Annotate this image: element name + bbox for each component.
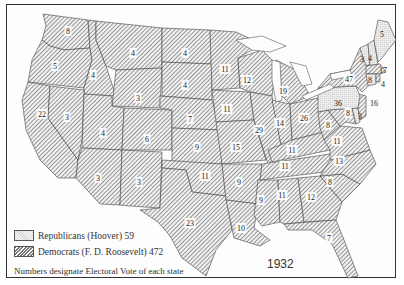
label-nevada: 3: [65, 113, 69, 122]
legend-republican-label: Republicans (Hoover) 59: [38, 231, 134, 241]
label-south-carolina: 8: [328, 178, 332, 187]
label-arizona: 3: [96, 174, 100, 183]
label-iowa: 11: [223, 105, 231, 114]
label-rhode-island: 4: [381, 80, 385, 89]
label-illinois: 29: [255, 126, 263, 135]
label-minnesota: 11: [221, 65, 229, 74]
legend: Republicans (Hoover) 59 Democrats (F. D.…: [14, 229, 163, 261]
democrat-swatch: [14, 246, 34, 257]
label-ohio: 26: [300, 114, 308, 123]
label-texas: 23: [186, 219, 194, 228]
label-kentucky: 11: [288, 146, 296, 155]
state-rhode-island: [376, 74, 380, 82]
label-nebraska: 7: [188, 115, 192, 124]
state-wisconsin: [238, 50, 276, 96]
republican-swatch: [14, 230, 34, 241]
label-south-dakota: 4: [183, 81, 187, 90]
label-michigan: 19: [279, 87, 287, 96]
state-montana: [96, 21, 162, 70]
label-idaho: 4: [91, 71, 95, 80]
label-georgia: 12: [307, 193, 315, 202]
label-connecticut: 8: [368, 76, 372, 85]
label-new-hampshire: 4: [368, 54, 372, 63]
label-missouri: 15: [232, 143, 240, 152]
label-massachusetts: 17: [379, 66, 387, 75]
state-north-dakota: [162, 28, 212, 64]
label-new-mexico: 3: [137, 178, 141, 187]
label-virginia: 11: [333, 137, 341, 146]
label-tennessee: 11: [281, 162, 289, 171]
label-pennsylvania: 36: [334, 99, 342, 108]
label-maine: 5: [380, 30, 384, 39]
label-mississippi: 9: [259, 196, 263, 205]
legend-republican: Republicans (Hoover) 59: [14, 229, 163, 242]
label-north-dakota: 4: [183, 49, 187, 58]
label-kansas: 9: [195, 143, 199, 152]
label-florida: 7: [327, 234, 331, 243]
label-alabama: 11: [278, 191, 286, 200]
label-oregon: 5: [53, 62, 57, 71]
legend-democrat: Democrats (F. D. Roosevelt) 472: [14, 245, 163, 258]
legend-democrat-label: Democrats (F. D. Roosevelt) 472: [38, 247, 163, 257]
label-north-carolina: 13: [335, 157, 343, 166]
label-wyoming: 3: [136, 94, 140, 103]
label-montana: 4: [131, 49, 135, 58]
label-indiana: 14: [276, 119, 284, 128]
label-california: 22: [38, 110, 46, 119]
label-vermont: 3: [360, 55, 364, 64]
label-wisconsin: 12: [243, 76, 251, 85]
label-delaware: 3: [358, 112, 362, 121]
state-maine: [374, 20, 396, 62]
label-oklahoma: 11: [201, 172, 209, 181]
map-note: Numbers designate Electoral Vote of each…: [14, 266, 184, 276]
label-new-york: 47: [345, 75, 353, 84]
label-west-virginia: 8: [326, 121, 330, 130]
map-year: 1932: [267, 257, 294, 271]
label-new-jersey: 16: [370, 99, 378, 108]
label-louisiana: 10: [237, 224, 245, 233]
label-maryland: 8: [346, 109, 350, 118]
label-washington: 8: [66, 27, 70, 36]
label-arkansas: 9: [237, 178, 241, 187]
label-colorado: 6: [145, 135, 149, 144]
label-utah: 4: [101, 129, 105, 138]
state-florida: [284, 220, 358, 278]
state-iowa: [212, 90, 254, 122]
